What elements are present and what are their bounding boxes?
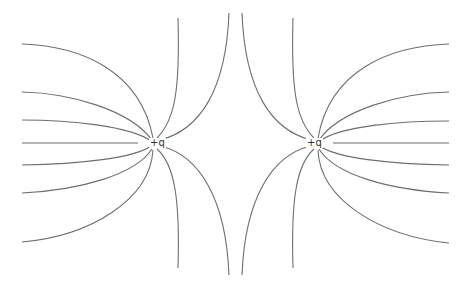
field-diagram: [0, 0, 469, 290]
field-line-right: [293, 149, 314, 268]
field-line-right: [242, 13, 311, 140]
field-line-left: [160, 13, 229, 140]
charge-label-right: +q: [306, 138, 323, 148]
field-lines: [22, 13, 449, 275]
field-line-left: [22, 146, 151, 165]
field-line-left: [22, 149, 152, 193]
field-line-right: [319, 149, 449, 193]
field-line-right: [242, 146, 311, 275]
charge-label-left: +q: [149, 138, 166, 148]
field-line-left: [22, 120, 151, 141]
field-line-right: [320, 146, 449, 165]
field-line-left: [157, 18, 178, 138]
field-line-left: [22, 150, 153, 242]
field-line-left: [157, 149, 178, 268]
field-line-left: [160, 146, 229, 275]
field-line-right: [320, 121, 449, 141]
field-line-right: [293, 18, 314, 138]
